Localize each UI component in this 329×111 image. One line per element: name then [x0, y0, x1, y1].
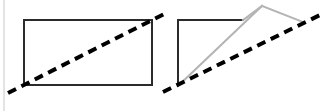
right-figure [163, 6, 322, 92]
diagonal-dashed-line [8, 12, 168, 93]
left-figure [8, 12, 168, 93]
geometry-figure-pair [0, 0, 329, 111]
gray-rising-edge [178, 6, 262, 86]
gray-falling-edge [262, 6, 303, 22]
figure-canvas [0, 0, 329, 111]
gray-cross-edge [243, 6, 262, 20]
